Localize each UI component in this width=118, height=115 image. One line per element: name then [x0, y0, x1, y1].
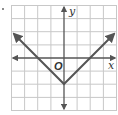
coordinate-graph: y x O [0, 0, 118, 115]
axes [13, 7, 115, 109]
origin-label: O [54, 60, 63, 72]
x-axis-label: x [108, 59, 115, 72]
y-axis-label: y [68, 5, 76, 18]
